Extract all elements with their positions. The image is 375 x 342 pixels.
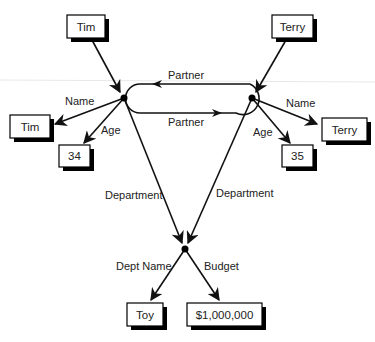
terry-age-label: Age bbox=[253, 126, 273, 138]
svg-text:35: 35 bbox=[291, 150, 304, 162]
tim-age-label: Age bbox=[101, 124, 121, 136]
edge-terry-to-node bbox=[256, 40, 286, 92]
box-dept-name: Toy bbox=[127, 303, 167, 330]
edge-budget bbox=[185, 249, 219, 300]
box-tim-age: 34 bbox=[59, 145, 94, 171]
svg-text:Terry: Terry bbox=[332, 124, 358, 136]
partner-loop bbox=[126, 84, 260, 115]
tim-department-label: Department bbox=[105, 189, 162, 201]
partner-label-top: Partner bbox=[168, 69, 204, 81]
node-department bbox=[182, 246, 189, 253]
budget-label: Budget bbox=[204, 260, 239, 272]
edge-dept-name bbox=[151, 249, 185, 300]
node-terry bbox=[249, 95, 256, 102]
dept-name-label: Dept Name bbox=[116, 260, 172, 272]
node-tim bbox=[121, 95, 128, 102]
svg-text:Toy: Toy bbox=[136, 309, 154, 321]
svg-text:Tim: Tim bbox=[77, 21, 96, 33]
box-dept-budget: $1,000,000 bbox=[187, 303, 266, 330]
box-terry-name: Terry bbox=[322, 118, 371, 145]
box-terry-age: 35 bbox=[282, 145, 317, 171]
svg-text:Tim: Tim bbox=[21, 121, 40, 133]
svg-text:$1,000,000: $1,000,000 bbox=[196, 309, 254, 321]
svg-text:34: 34 bbox=[68, 150, 81, 162]
semantic-network-diagram: Partner Partner Name Age Department Name… bbox=[0, 0, 375, 342]
terry-name-label: Name bbox=[286, 97, 315, 109]
svg-text:Terry: Terry bbox=[280, 21, 306, 33]
box-tim-name: Tim bbox=[10, 115, 54, 142]
tim-name-label: Name bbox=[65, 95, 94, 107]
box-terry-entity: Terry bbox=[272, 15, 317, 42]
partner-label-bottom: Partner bbox=[168, 116, 204, 128]
box-tim-entity: Tim bbox=[67, 15, 109, 42]
edge-tim-to-node bbox=[92, 40, 120, 92]
terry-department-label: Department bbox=[216, 187, 273, 199]
